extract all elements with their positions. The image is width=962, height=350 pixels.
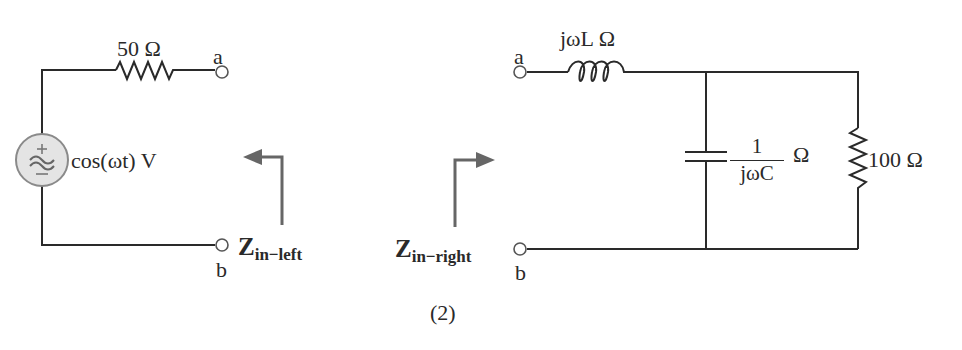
terminal-a-left-label: a bbox=[213, 46, 223, 68]
figure-caption: (2) bbox=[430, 302, 456, 324]
inductor-label: jωL Ω bbox=[560, 28, 615, 50]
arrow-zin-right-icon bbox=[455, 152, 495, 227]
terminal-b-right bbox=[514, 243, 526, 255]
ac-voltage-source-icon bbox=[16, 134, 68, 186]
resistor-100-label: 100 Ω bbox=[868, 149, 923, 171]
inductor-icon bbox=[568, 62, 632, 82]
zin-left-main: Z bbox=[238, 233, 255, 260]
zin-left-sub: in−left bbox=[255, 245, 302, 264]
resistor-50-ohm bbox=[116, 62, 215, 79]
zin-right-sub: in−right bbox=[412, 247, 472, 266]
zin-right-label: Zin−right bbox=[395, 236, 471, 265]
capacitor-denominator: jωC bbox=[730, 161, 784, 184]
terminal-b-left-label: b bbox=[216, 259, 227, 281]
capacitor-impedance-fraction: 1 jωC bbox=[730, 136, 784, 184]
resistor-50-label: 50 Ω bbox=[117, 38, 161, 60]
right-circuit bbox=[527, 62, 866, 250]
zin-left-label: Zin−left bbox=[238, 234, 302, 263]
capacitor-numerator: 1 bbox=[730, 136, 784, 161]
zin-right-main: Z bbox=[395, 235, 412, 262]
right-top-wire bbox=[632, 72, 858, 128]
terminal-a-right-label: a bbox=[514, 46, 524, 68]
arrow-zin-left-icon bbox=[243, 149, 282, 225]
left-bottom-wire bbox=[42, 186, 215, 245]
capacitor-unit: Ω bbox=[793, 144, 809, 166]
terminal-b-left bbox=[216, 239, 228, 251]
terminal-b-right-label: b bbox=[515, 262, 526, 284]
source-label: cos(ωt) V bbox=[71, 150, 157, 172]
resistor-100-ohm bbox=[850, 128, 866, 249]
left-top-wire bbox=[42, 70, 116, 134]
